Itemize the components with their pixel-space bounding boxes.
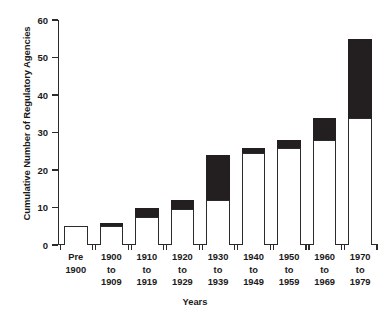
x-axis-label-line: to	[307, 264, 343, 277]
y-tick: 50	[52, 57, 58, 58]
bar-segment-dark	[348, 39, 372, 118]
bar-segment-dark	[277, 140, 301, 148]
bar-segment-light	[64, 226, 88, 245]
x-axis-label-line: 1959	[271, 276, 307, 289]
x-axis-label-line: to	[129, 264, 165, 277]
x-tick	[166, 245, 167, 250]
x-axis-label-line: 1910	[129, 251, 165, 264]
bar-segment-light	[348, 118, 372, 246]
y-tick: 10	[52, 207, 58, 208]
bar	[135, 208, 159, 246]
x-axis-label-line: to	[165, 264, 201, 277]
x-axis-label-line: Pre	[58, 251, 94, 264]
x-axis-label-line: 1939	[200, 276, 236, 289]
x-axis-label-line: 1909	[94, 276, 130, 289]
x-axis-label-line: to	[342, 264, 378, 277]
bar-segment-light	[100, 226, 124, 245]
bar	[206, 155, 230, 245]
bar-segment-light	[242, 153, 266, 245]
y-tick: 0	[52, 244, 58, 245]
x-axis-title: Years	[0, 297, 390, 307]
bar	[171, 200, 195, 245]
y-tick: 20	[52, 169, 58, 170]
x-tick	[270, 245, 271, 250]
x-tick	[344, 245, 345, 250]
bar-segment-light	[206, 200, 230, 245]
x-axis-label-line: 1900	[58, 264, 94, 277]
x-axis-label: 1950to1959	[271, 251, 307, 289]
x-axis-label-line: to	[94, 264, 130, 277]
regulatory-agencies-bar-chart: Cumulative Number of Regulatory Agencies…	[0, 0, 390, 313]
y-axis-title: Cumulative Number of Regulatory Agencies	[21, 14, 32, 234]
x-tick	[199, 245, 200, 250]
y-tick: 60	[52, 19, 58, 20]
x-axis-label: 1930to1939	[200, 251, 236, 289]
bar-segment-dark	[171, 200, 195, 209]
x-axis-label-line: to	[200, 264, 236, 277]
y-tick-label: 10	[37, 202, 48, 213]
y-tick-label: 50	[37, 52, 48, 63]
x-tick	[60, 245, 61, 250]
y-tick-label: 0	[43, 239, 48, 250]
x-tick	[237, 245, 238, 250]
x-tick	[376, 245, 377, 250]
x-axis-label-line: 1940	[236, 251, 272, 264]
x-axis-label-line: 1949	[236, 276, 272, 289]
bar	[348, 39, 372, 245]
x-tick	[234, 245, 235, 250]
x-axis-label: 1970to1979	[342, 251, 378, 289]
bar-segment-light	[313, 140, 337, 245]
bar-segment-light	[171, 209, 195, 245]
x-axis-label-line: 1969	[307, 276, 343, 289]
y-tick-label: 60	[37, 15, 48, 26]
x-tick	[95, 245, 96, 250]
x-tick	[92, 245, 93, 250]
x-tick	[305, 245, 306, 250]
x-axis-label-line: 1919	[129, 276, 165, 289]
y-tick-label: 40	[37, 89, 48, 100]
x-axis-label: 1940to1949	[236, 251, 272, 289]
bar-segment-dark	[313, 118, 337, 141]
bar-segment-dark	[242, 148, 266, 154]
x-tick	[273, 245, 274, 250]
y-tick: 40	[52, 94, 58, 95]
x-axis-label-line: to	[236, 264, 272, 277]
bar	[313, 118, 337, 246]
bar	[100, 223, 124, 246]
y-axis-line	[58, 20, 59, 245]
bar-segment-light	[277, 148, 301, 246]
y-tick-label: 30	[37, 127, 48, 138]
bar-segment-dark	[206, 155, 230, 200]
x-axis-label: 1960to1969	[307, 251, 343, 289]
x-axis-label-line: to	[271, 264, 307, 277]
bar-segment-dark	[135, 208, 159, 217]
x-axis-label-line: 1929	[165, 276, 201, 289]
x-axis-label-line: 1970	[342, 251, 378, 264]
y-tick: 30	[52, 132, 58, 133]
x-axis-label: Pre1900	[58, 251, 94, 276]
x-axis-label-line: 1920	[165, 251, 201, 264]
x-tick	[128, 245, 129, 250]
x-axis-label-line: 1900	[94, 251, 130, 264]
bar-segment-dark	[100, 223, 124, 227]
bar	[277, 140, 301, 245]
x-axis-labels: Pre19001900to19091910to19191920to1929193…	[58, 251, 378, 295]
x-axis-label: 1900to1909	[94, 251, 130, 289]
x-axis-label: 1920to1929	[165, 251, 201, 289]
x-axis-label-line: 1930	[200, 251, 236, 264]
y-tick-label: 20	[37, 164, 48, 175]
plot-area: 0102030405060	[58, 20, 378, 245]
bar	[242, 148, 266, 246]
x-tick	[131, 245, 132, 250]
x-tick	[341, 245, 342, 250]
x-tick	[163, 245, 164, 250]
bar	[64, 226, 88, 245]
x-axis-label-line: 1979	[342, 276, 378, 289]
x-axis-label-line: 1950	[271, 251, 307, 264]
x-axis-label-line: 1960	[307, 251, 343, 264]
bar-segment-light	[135, 217, 159, 245]
x-axis-label: 1910to1919	[129, 251, 165, 289]
x-tick	[202, 245, 203, 250]
x-tick	[308, 245, 309, 250]
